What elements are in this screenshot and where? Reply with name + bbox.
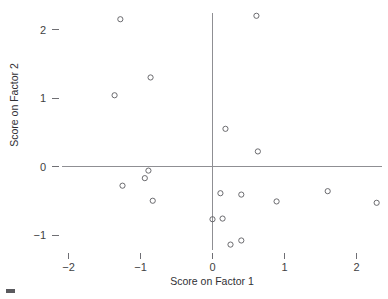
scatter-point: [239, 192, 244, 197]
scatter-point: [218, 191, 223, 196]
scatter-point: [374, 200, 379, 205]
x-axis-ticks-group: −2−1012: [62, 253, 359, 273]
axis-lines-group: [62, 13, 382, 250]
data-points-group: [112, 13, 379, 247]
scatter-point: [325, 189, 330, 194]
y-axis-title: Score on Factor 2: [8, 63, 20, 147]
caption-stub: [6, 289, 15, 293]
x-tick-label: −2: [62, 261, 75, 273]
scatter-point: [146, 168, 151, 173]
scatter-point: [220, 216, 225, 221]
x-axis-title: Score on Factor 1: [170, 275, 254, 287]
y-tick-label: 0: [40, 161, 46, 173]
scatter-point: [142, 176, 147, 181]
scatter-point: [255, 149, 260, 154]
scatter-plot-canvas: −2−1012 −1012 Score on Factor 1 Score on…: [0, 0, 388, 299]
scatter-point: [274, 199, 279, 204]
scatter-point: [150, 198, 155, 203]
scatter-point: [148, 75, 153, 80]
y-tick-label: 1: [40, 92, 46, 104]
scatter-plot-figure: −2−1012 −1012 Score on Factor 1 Score on…: [0, 0, 388, 299]
scatter-point: [120, 183, 125, 188]
x-tick-label: −1: [134, 261, 147, 273]
x-tick-label: 0: [209, 261, 215, 273]
x-tick-label: 1: [281, 261, 287, 273]
scatter-point: [112, 93, 117, 98]
y-axis-ticks-group: −1012: [33, 24, 59, 242]
x-tick-label: 2: [353, 261, 359, 273]
scatter-point: [223, 126, 228, 131]
scatter-point: [254, 13, 259, 18]
y-tick-label: 2: [40, 24, 46, 36]
scatter-point: [239, 238, 244, 243]
scatter-point: [228, 242, 233, 247]
y-tick-label: −1: [33, 229, 46, 241]
scatter-point: [118, 17, 123, 22]
